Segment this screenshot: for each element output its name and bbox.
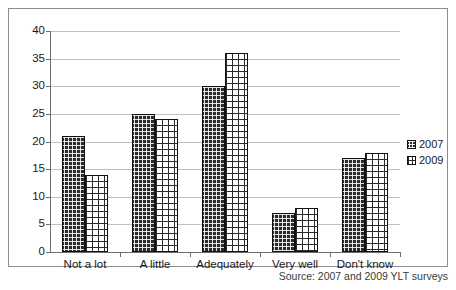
bar-2007-adequately[interactable] xyxy=(202,86,225,252)
series-2009-swatch-icon xyxy=(407,156,416,165)
y-tick-mark-5 xyxy=(46,224,50,225)
y-axis-tick-labels: 0510152025303540 xyxy=(9,9,45,290)
y-tick-label-35: 35 xyxy=(13,53,45,65)
y-tick-mark-35 xyxy=(46,59,50,60)
y-tick-label-25: 25 xyxy=(13,108,45,120)
y-tick-label-10: 10 xyxy=(13,191,45,203)
bar-2009-adequately[interactable] xyxy=(225,53,248,252)
y-tick-mark-25 xyxy=(46,114,50,115)
bar-2009-don-t-know[interactable] xyxy=(365,153,388,252)
bar-2009-very-well[interactable] xyxy=(295,208,318,252)
gridline-0 xyxy=(50,252,400,253)
x-axis-label-very-well: Very well xyxy=(260,259,330,271)
y-tick-mark-20 xyxy=(46,142,50,143)
plot-area xyxy=(50,31,400,252)
x-axis-tick-end xyxy=(400,252,401,257)
x-axis-label-a-little: A little xyxy=(120,259,190,271)
x-axis-tick-2 xyxy=(190,252,191,257)
y-tick-label-20: 20 xyxy=(13,136,45,148)
bar-2007-a-little[interactable] xyxy=(132,114,155,252)
y-axis-line xyxy=(50,31,51,253)
y-tick-mark-0 xyxy=(46,252,50,253)
y-tick-label-5: 5 xyxy=(13,218,45,230)
x-axis-label-adequately: Adequately xyxy=(190,259,260,271)
series-2007-swatch-icon xyxy=(407,140,416,149)
y-tick-label-15: 15 xyxy=(13,163,45,175)
y-tick-label-0: 0 xyxy=(13,246,45,258)
y-tick-mark-30 xyxy=(46,86,50,87)
x-axis-label-not-a-lot: Not a lot xyxy=(50,259,120,271)
x-axis-tick-1 xyxy=(120,252,121,257)
figure: 0510152025303540 Not a lotA littleAdequa… xyxy=(0,0,456,290)
x-axis-tick-4 xyxy=(330,252,331,257)
x-axis-tick-3 xyxy=(260,252,261,257)
y-tick-label-30: 30 xyxy=(13,80,45,92)
y-tick-mark-10 xyxy=(46,197,50,198)
y-tick-mark-40 xyxy=(46,31,50,32)
gridline-40 xyxy=(50,31,400,32)
legend-item-2007[interactable]: 2007 xyxy=(407,136,455,152)
y-tick-mark-15 xyxy=(46,169,50,170)
legend: 2007 2009 xyxy=(407,136,455,168)
legend-label-2009: 2009 xyxy=(419,155,443,166)
bar-2009-not-a-lot[interactable] xyxy=(85,175,108,252)
bar-2009-a-little[interactable] xyxy=(155,119,178,252)
x-axis-label-don-t-know: Don't know xyxy=(330,259,400,271)
bar-2007-very-well[interactable] xyxy=(272,213,295,252)
legend-label-2007: 2007 xyxy=(419,139,443,150)
bar-2007-not-a-lot[interactable] xyxy=(62,136,85,252)
source-caption: Source: 2007 and 2009 YLT surveys xyxy=(279,271,448,282)
legend-item-2009[interactable]: 2009 xyxy=(407,152,455,168)
chart-frame: 0510152025303540 Not a lotA littleAdequa… xyxy=(8,8,448,267)
y-tick-label-40: 40 xyxy=(13,25,45,37)
bar-2007-don-t-know[interactable] xyxy=(342,158,365,252)
